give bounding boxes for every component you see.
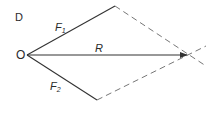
f1-label-subscript: 1 bbox=[62, 27, 66, 34]
dashed-construction-line-2 bbox=[97, 46, 206, 100]
f1-label: F1 bbox=[55, 22, 66, 34]
f1-label-letter: F bbox=[55, 21, 62, 33]
parallelogram-of-forces-diagram bbox=[0, 0, 219, 127]
vector-f2 bbox=[27, 55, 97, 100]
dashed-construction-line-1 bbox=[115, 6, 206, 66]
f2-label: F2 bbox=[50, 81, 61, 93]
r-label: R bbox=[95, 43, 103, 54]
f2-label-letter: F bbox=[50, 80, 57, 92]
f2-label-subscript: 2 bbox=[57, 86, 61, 93]
panel-label: D bbox=[15, 12, 23, 23]
origin-label: O bbox=[16, 49, 25, 61]
